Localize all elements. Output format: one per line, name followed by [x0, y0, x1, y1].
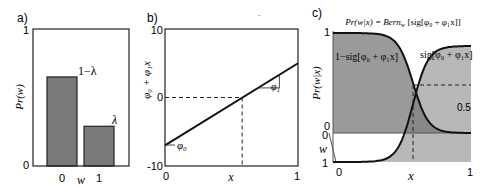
bar-0: [47, 77, 77, 166]
panel-b-ytick-0: 0: [157, 91, 163, 103]
panel-b-xlabel: x: [227, 170, 234, 184]
linear-function-line: [165, 63, 298, 145]
half-label: 0.5: [457, 102, 471, 113]
panel-a-ytick-0: 0: [23, 159, 29, 171]
intercept-label: φ₀: [177, 139, 187, 151]
panel-b-ytick-minus10: -10: [147, 160, 163, 172]
panel-b-xtick-0: 0: [163, 170, 169, 182]
panel-c-wtick-0: 0: [322, 129, 328, 141]
panel-c-xlabel: x: [407, 168, 414, 183]
panel-c-ytick-1: 1: [324, 26, 330, 38]
panel-a: a) 1 0 0 1 w Pr(w) 1−λ λ: [13, 11, 129, 187]
panel-b-xtick-1: 1: [294, 170, 300, 182]
curve-label-right: sig[φ₀ + φ₁x]: [420, 49, 473, 60]
panel-a-bars: [47, 77, 114, 166]
panel-a-ylabel: Pr(w): [13, 84, 26, 111]
panel-a-xtick-0: 0: [59, 172, 65, 184]
panel-a-label: a): [17, 11, 28, 25]
figure: a) 1 0 0 1 w Pr(w) 1−λ λ b) φ₀ φ₁ 10 0 -…: [0, 0, 488, 187]
panel-a-ytick-1: 1: [23, 24, 29, 36]
bar-label-0: 1−λ: [78, 64, 97, 78]
panel-c-label: c): [312, 6, 322, 20]
panel-b-ytick-10: 10: [151, 24, 163, 36]
stray-mark: -: [258, 10, 261, 19]
panel-c-title: Pr(w|x) = Bernw [sig[φ₀ + φ₁x]]: [344, 17, 460, 28]
curve-label-left: 1−sig[φ₀ + φ₁x]: [335, 51, 398, 62]
panel-c-xtick-0: 0: [336, 166, 342, 178]
panel-a-xtick-1: 1: [96, 172, 102, 184]
bar-label-1: λ: [111, 113, 117, 127]
panel-a-xlabel: w: [77, 173, 85, 187]
panel-b-ylabel: φ₀ + φ₁x: [140, 61, 152, 99]
panel-c-ylabel: Pr(w|x): [310, 66, 323, 101]
slope-label: φ₁: [271, 81, 280, 92]
panel-b-label: b): [147, 11, 158, 25]
panel-c-xtick-1: 1: [467, 166, 473, 178]
panel-c-title-lhs: Pr(w|x) = Bern: [344, 17, 401, 27]
panel-c-wlabel: w: [319, 142, 327, 156]
panel-b: b) φ₀ φ₁ 10 0 -10 0 1 x φ₀ + φ₁x -: [140, 10, 300, 184]
panel-c: c) Pr(w|x) = Bernw [sig[φ₀ + φ₁x]] 1−sig…: [310, 6, 473, 183]
panel-c-wtick-1: 1: [322, 157, 328, 169]
panel-c-title-rhs: [sig[φ₀ + φ₁x]]: [405, 17, 460, 27]
bar-1: [84, 126, 114, 166]
